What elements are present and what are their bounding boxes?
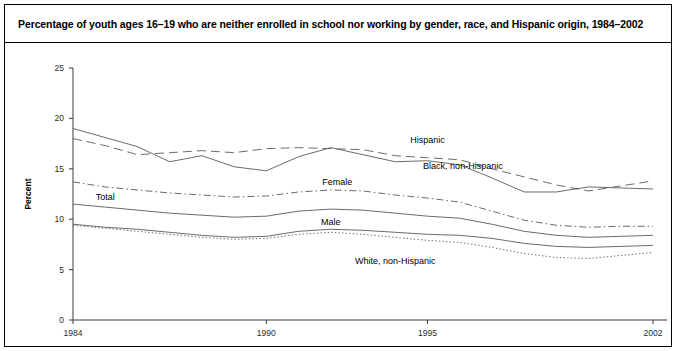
series-line-hispanic: [73, 139, 653, 191]
y-tick-label: 5: [59, 265, 64, 275]
series-label: Female: [322, 177, 352, 187]
x-axis: 1984199019952002: [64, 320, 667, 338]
series-label: Male: [321, 217, 341, 227]
y-tick-label: 25: [55, 63, 65, 73]
y-tick-label: 0: [59, 315, 64, 325]
series-line-female: [73, 182, 653, 227]
series-label: Black, non-Hispanic: [423, 161, 503, 171]
x-tick-label: 2002: [644, 328, 663, 338]
plot-area: 0510152025 1984199019952002 HispanicBlac…: [5, 44, 671, 346]
series-label: Hispanic: [410, 135, 445, 145]
y-tick-label: 20: [55, 113, 65, 123]
series-line-total: [73, 204, 653, 237]
page-title: Percentage of youth ages 16–19 who are n…: [18, 18, 663, 30]
series-lines: [73, 128, 653, 258]
y-tick-label: 15: [55, 164, 65, 174]
series-label: Total: [96, 192, 115, 202]
x-tick-label: 1984: [64, 328, 83, 338]
title-bar: Percentage of youth ages 16–19 who are n…: [5, 5, 671, 43]
chart-figure: Percentage of youth ages 16–19 who are n…: [0, 0, 676, 351]
y-axis-title: Percent: [23, 178, 33, 209]
axis-titles: Percent: [23, 178, 33, 209]
y-axis: 0510152025: [55, 63, 73, 325]
line-chart-svg: 0510152025 1984199019952002 HispanicBlac…: [5, 44, 671, 346]
series-label: White, non-Hispanic: [355, 256, 436, 266]
y-tick-label: 10: [55, 214, 65, 224]
x-tick-label: 1990: [257, 328, 276, 338]
x-tick-label: 1995: [418, 328, 437, 338]
series-line-black-non-hispanic: [73, 128, 653, 191]
